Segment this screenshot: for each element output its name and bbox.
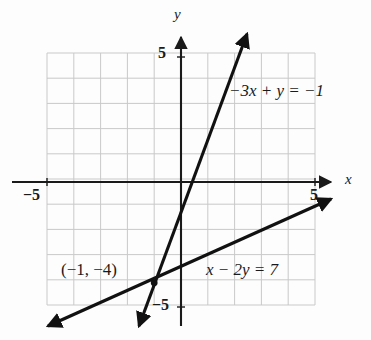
x-axis-tick-minus5: −5 [23,187,40,203]
graph-canvas [0,0,371,340]
intersection-point-marker [151,279,158,286]
equation-label-line1: −3x + y = −1 [229,82,324,99]
y-axis-label: y [174,7,181,22]
solution-point-label: (−1, −4) [61,261,117,278]
x-axis-label: x [345,172,352,187]
coordinate-graph-figure: y x 5 −5 −5 5 −3x + y = −1 x − 2y = 7 (−… [0,0,371,340]
x-axis-tick-5: 5 [310,187,318,203]
equation-label-line2: x − 2y = 7 [206,261,278,278]
y-axis-tick-5: 5 [158,45,166,61]
y-axis-tick-minus5: −5 [152,297,169,313]
